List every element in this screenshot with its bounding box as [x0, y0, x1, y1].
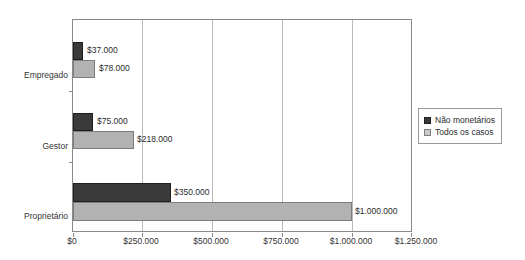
legend-swatch-icon-todos-os-casos	[424, 129, 431, 136]
x-axis-label-500000: $500.000	[193, 236, 228, 246]
category-label-proprietario: Proprietário	[24, 211, 68, 221]
bar-value-empregado-nao-monetarios: $37.000	[87, 45, 118, 55]
legend-swatch-icon-nao-monetarios	[424, 117, 431, 124]
category-label-empregado: Empregado	[24, 70, 68, 80]
bar-value-gestor-nao-monetarios: $75.000	[97, 116, 128, 126]
bar-chart: Empregado Gestor Proprietário $37.000 $7…	[0, 0, 525, 260]
chart-title	[0, 0, 525, 1]
legend-item-nao-monetarios[interactable]: Não monetários	[424, 114, 495, 126]
bar-value-proprietario-todos-os-casos: $1.000.000	[355, 206, 398, 216]
bar-gestor-todos-os-casos[interactable]	[73, 131, 134, 149]
legend-item-todos-os-casos[interactable]: Todos os casos	[424, 126, 495, 138]
bar-empregado-nao-monetarios[interactable]	[73, 42, 83, 60]
x-axis-label-250000: $250.000	[123, 236, 158, 246]
bar-proprietario-todos-os-casos[interactable]	[73, 202, 352, 221]
bar-value-gestor-todos-os-casos: $218.000	[137, 134, 172, 144]
gridline-500000	[212, 20, 213, 231]
plot-area: $37.000 $78.000 $75.000 $218.000 $350.00…	[72, 19, 412, 232]
category-axis-labels: Empregado Gestor Proprietário	[0, 19, 68, 232]
category-label-gestor: Gestor	[42, 141, 68, 151]
bar-gestor-nao-monetarios[interactable]	[73, 113, 93, 131]
legend-label-nao-monetarios: Não monetários	[435, 115, 495, 125]
bar-proprietario-nao-monetarios[interactable]	[73, 183, 171, 202]
y-axis-tick	[69, 91, 73, 92]
y-axis-tick	[69, 162, 73, 163]
chart-legend: Não monetários Todos os casos	[418, 108, 502, 144]
gridline-750000	[282, 20, 283, 231]
bar-empregado-todos-os-casos[interactable]	[73, 60, 95, 78]
x-axis-label-750000: $750.000	[263, 236, 298, 246]
legend-label-todos-os-casos: Todos os casos	[435, 127, 494, 137]
x-axis-labels: $0 $250.000 $500.000 $750.000 $1.000.000…	[0, 236, 525, 250]
gridline-1000000	[352, 20, 353, 231]
x-axis-label-0: $0	[67, 236, 76, 246]
bar-value-proprietario-nao-monetarios: $350.000	[174, 187, 209, 197]
x-axis-label-1250000: $1.250.000	[395, 236, 438, 246]
bar-value-empregado-todos-os-casos: $78.000	[99, 63, 130, 73]
x-axis-label-1000000: $1.000.000	[330, 236, 373, 246]
